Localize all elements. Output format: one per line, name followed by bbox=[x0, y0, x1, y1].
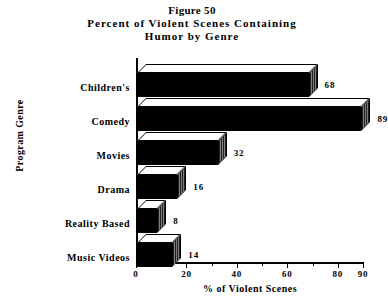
bar-front-face bbox=[137, 175, 177, 199]
x-tick-20 bbox=[186, 262, 187, 268]
category-label-drama: Drama bbox=[0, 184, 130, 195]
x-tick-label-0: 0 bbox=[133, 269, 138, 279]
x-tick-70 bbox=[313, 262, 314, 266]
x-tick-label-40: 40 bbox=[232, 269, 243, 279]
x-tick-60 bbox=[287, 262, 288, 268]
bar-comedy bbox=[137, 98, 370, 131]
x-tick-label-60: 60 bbox=[282, 269, 293, 279]
bar-top-face bbox=[137, 64, 318, 73]
category-label-comedy: Comedy bbox=[0, 116, 130, 127]
bar-music-videos bbox=[137, 234, 181, 267]
bar-value-label: 32 bbox=[234, 148, 245, 158]
x-axis-title: % of Violent Scenes bbox=[136, 283, 364, 294]
x-tick-80 bbox=[338, 262, 339, 268]
x-tick-30 bbox=[212, 262, 213, 266]
chart-subtitle-line-1: Percent of Violent Scenes Containing bbox=[0, 17, 384, 30]
category-label-group: Music VideosReality BasedDramaMoviesCome… bbox=[0, 58, 130, 262]
chart-subtitle-line-2: Humor by Genre bbox=[0, 30, 384, 43]
bar-drama bbox=[137, 166, 186, 199]
x-tick-label-20: 20 bbox=[181, 269, 192, 279]
bar-front-face bbox=[137, 73, 309, 97]
bar-front-face bbox=[137, 209, 157, 233]
bar-value-label: 68 bbox=[325, 80, 336, 90]
x-tick-40 bbox=[237, 262, 238, 268]
bar-value-label: 14 bbox=[188, 250, 199, 260]
bar-top-face bbox=[137, 132, 227, 141]
plot-area: 0204060809014816328968 bbox=[136, 58, 364, 262]
category-label-children-s: Children's bbox=[0, 82, 130, 93]
bar-top-face bbox=[137, 98, 370, 107]
bar-value-label: 89 bbox=[377, 114, 388, 124]
category-label-reality-based: Reality Based bbox=[0, 218, 130, 229]
x-tick-label-80: 80 bbox=[332, 269, 343, 279]
bar-value-label: 8 bbox=[173, 216, 178, 226]
bar-children-s bbox=[137, 64, 318, 97]
category-label-music-videos: Music Videos bbox=[0, 252, 130, 263]
x-tick-label-90: 90 bbox=[358, 269, 369, 279]
figure-number: Figure 50 bbox=[0, 4, 384, 17]
bar-front-face bbox=[137, 107, 361, 131]
category-label-movies: Movies bbox=[0, 150, 130, 161]
x-tick-50 bbox=[262, 262, 263, 266]
bar-front-face bbox=[137, 141, 218, 165]
bar-value-label: 16 bbox=[193, 182, 204, 192]
bar-reality-based bbox=[137, 200, 166, 233]
x-tick-90 bbox=[363, 262, 364, 268]
bar-movies bbox=[137, 132, 227, 165]
chart-title-block: Figure 50 Percent of Violent Scenes Cont… bbox=[0, 4, 384, 43]
bar-front-face bbox=[137, 243, 172, 267]
